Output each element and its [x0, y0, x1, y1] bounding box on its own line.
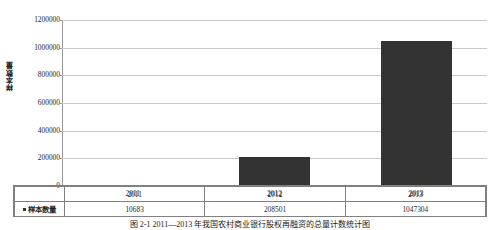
figure-caption: 图 2-1 2011—2013 年我国农村商业银行股权再融资的总量计数统计图 — [0, 219, 500, 230]
y-axis-tick — [59, 48, 62, 49]
y-axis-tick — [59, 131, 62, 132]
plot-area — [62, 20, 487, 186]
table-header-1: 2012 — [205, 187, 345, 202]
legend-entry: 样本数量 — [15, 202, 65, 217]
legend-cell-empty — [15, 187, 65, 202]
table-value-2: 1047304 — [345, 202, 485, 217]
y-axis-tick — [59, 20, 62, 21]
gridline — [62, 20, 487, 21]
y-axis-tick-labels: 120000010000008000006000004000002000000 — [20, 0, 60, 190]
y-axis-title: 样本数量 — [6, 62, 20, 91]
table-header-2: 2013 — [345, 187, 485, 202]
y-axis-tick — [59, 75, 62, 76]
legend-swatch-icon — [23, 208, 27, 212]
table-value-1: 208501 — [205, 202, 345, 217]
bar — [239, 157, 310, 186]
legend-label: 样本数量 — [28, 205, 57, 214]
figure-container: 样本数量 12000001000000800000600000400000200… — [0, 0, 500, 230]
table-row: 样本数量 10683 208501 1047304 — [15, 202, 486, 217]
chart-data-table: 2011 2012 2013 样本数量 10683 208501 1047304 — [13, 185, 487, 217]
table-row-headers: 2011 2012 2013 — [15, 187, 486, 202]
bar-chart: 样本数量 12000001000000800000600000400000200… — [0, 0, 500, 190]
y-axis-tick-label: 200000 — [20, 154, 60, 162]
y-axis-tick-label: 400000 — [20, 127, 60, 135]
y-axis-tick-label: 600000 — [20, 99, 60, 107]
y-axis-tick-label: 800000 — [20, 71, 60, 79]
bar — [381, 41, 452, 186]
y-axis-tick — [59, 158, 62, 159]
y-axis-tick — [59, 103, 62, 104]
table-value-0: 10683 — [65, 202, 205, 217]
table-header-0: 2011 — [65, 187, 205, 202]
y-axis-tick-label: 1200000 — [20, 16, 60, 24]
y-axis-tick-label: 1000000 — [20, 44, 60, 52]
